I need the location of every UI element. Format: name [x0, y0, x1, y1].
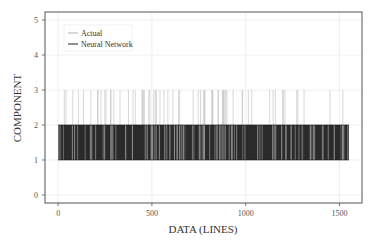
- x-axis-label: DATA (LINES): [168, 223, 237, 236]
- legend-label-actual: Actual: [81, 29, 103, 38]
- x-tick-label: 1500: [331, 209, 347, 218]
- y-tick-label: 2: [34, 121, 38, 130]
- x-tick-label: 1000: [238, 209, 254, 218]
- y-tick-label: 3: [34, 86, 38, 95]
- y-axis-ticks: 012345: [34, 16, 45, 200]
- legend: Actual Neural Network: [64, 25, 133, 51]
- y-axis-label: COMPONENT: [11, 73, 23, 142]
- x-tick-label: 500: [146, 209, 158, 218]
- x-tick-label: 0: [56, 209, 60, 218]
- y-tick-label: 4: [34, 51, 38, 60]
- series-neural-network: [58, 125, 349, 160]
- y-tick-label: 5: [34, 16, 38, 25]
- y-tick-label: 1: [34, 156, 38, 165]
- chart: 050010001500 012345 Actual Neural Networ…: [0, 0, 375, 248]
- y-tick-label: 0: [34, 191, 38, 200]
- x-axis-ticks: 050010001500: [56, 203, 347, 218]
- legend-label-neural-network: Neural Network: [81, 40, 133, 49]
